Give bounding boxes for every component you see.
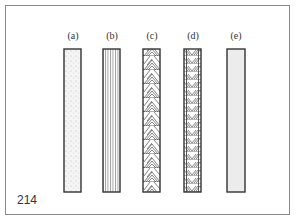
bar-c-herringbone-large bbox=[143, 49, 160, 192]
figure-number: 214 bbox=[17, 193, 37, 207]
bar-a-stippled bbox=[64, 49, 81, 192]
bar-e-solid-gray bbox=[227, 49, 245, 192]
bar-b-vertical-lines bbox=[103, 49, 120, 192]
pattern-bars bbox=[0, 0, 300, 221]
